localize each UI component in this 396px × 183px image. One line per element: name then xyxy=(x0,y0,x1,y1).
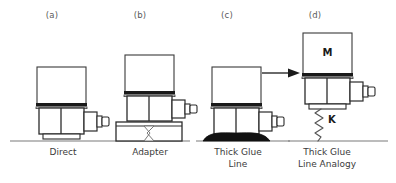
panel-label-d: (d) xyxy=(285,10,345,20)
connector-tip-d xyxy=(368,87,375,96)
connector-neck-c xyxy=(272,116,277,127)
sensor-seam-c xyxy=(211,103,262,106)
connector-body-c xyxy=(259,112,272,131)
sensor-seam-b xyxy=(124,91,175,94)
spring-icon-d xyxy=(315,109,323,141)
connector-body-b xyxy=(172,100,185,118)
thick-glue-line-c xyxy=(203,133,270,141)
sensor-seam-a xyxy=(36,103,87,106)
connector-tip-c xyxy=(277,117,284,126)
panel-label-c: (c) xyxy=(197,10,257,20)
connector-neck-d xyxy=(363,86,368,97)
accelerometer-a xyxy=(36,67,109,139)
connector-body-d xyxy=(350,82,363,101)
connector-neck-b xyxy=(185,104,190,114)
caption-d-line-2: Line Analogy xyxy=(272,158,382,170)
figure-canvas: (a) (b) (c) (d) xyxy=(0,0,396,183)
accelerometer-b xyxy=(116,55,197,141)
mounting-foot-a xyxy=(43,134,80,139)
caption-d: Thick Glue Line Analogy xyxy=(272,146,382,170)
connector-tip-a xyxy=(102,117,109,126)
sensor-housing-a xyxy=(37,67,86,105)
panel-label-a: (a) xyxy=(22,10,82,20)
spring-label-k: K xyxy=(328,114,336,125)
connector-body-a xyxy=(84,112,97,131)
sensor-seam-d xyxy=(302,73,353,76)
panel-label-b: (b) xyxy=(110,10,170,20)
connector-neck-a xyxy=(97,116,102,127)
connector-tip-b xyxy=(190,105,197,113)
caption-d-line-1: Thick Glue xyxy=(272,146,382,158)
right-arrow-icon xyxy=(262,69,300,78)
sensor-housing-b xyxy=(125,55,174,93)
sensor-housing-c xyxy=(212,67,261,105)
mounting-foot-d xyxy=(309,104,346,109)
mass-label-m: M xyxy=(303,47,352,58)
accelerometer-c xyxy=(203,67,284,141)
